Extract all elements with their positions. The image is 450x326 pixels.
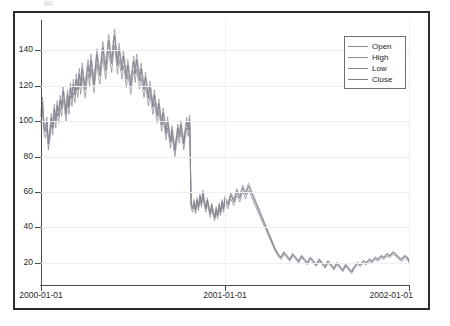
legend-swatch-close — [348, 79, 368, 80]
chart-figure: 204060801001201402000-01-012001-01-01200… — [0, 0, 450, 326]
legend-label-close: Close — [372, 74, 392, 85]
legend-swatch-low — [348, 68, 368, 69]
legend-swatch-high — [348, 57, 368, 58]
y-tick-text: 120 — [19, 81, 33, 90]
gridline-v — [225, 22, 226, 285]
legend-item-low[interactable]: Low — [348, 63, 402, 74]
artifact-speck — [44, 1, 53, 6]
gridline-v — [409, 22, 410, 285]
y-tick-mark — [35, 192, 41, 193]
y-tick-mark — [35, 86, 41, 87]
legend[interactable]: Open High Low Close — [344, 36, 406, 89]
y-tick-text: 140 — [19, 45, 33, 54]
legend-item-high[interactable]: High — [348, 52, 402, 63]
y-tick-mark — [35, 227, 41, 228]
y-tick-mark — [35, 121, 41, 122]
y-tick-text: 60 — [24, 187, 33, 196]
legend-swatch-open — [348, 46, 368, 47]
y-tick-text: 80 — [24, 152, 33, 161]
x-tick-label: 2002-01-01 — [370, 290, 413, 300]
x-tick-label: 2001-01-01 — [203, 290, 246, 300]
y-tick-text: 20 — [24, 258, 33, 267]
y-tick-mark — [35, 157, 41, 158]
y-tick-mark — [35, 50, 41, 51]
y-tick-text: 40 — [24, 222, 33, 231]
legend-item-open[interactable]: Open — [348, 41, 402, 52]
x-tick-label: 2000-01-01 — [19, 290, 62, 300]
y-tick-mark — [35, 263, 41, 264]
y-tick-text: 100 — [19, 116, 33, 125]
legend-label-low: Low — [372, 63, 387, 74]
legend-label-high: High — [372, 52, 388, 63]
legend-item-close[interactable]: Close — [348, 74, 402, 85]
y-axis-line — [41, 20, 42, 286]
legend-label-open: Open — [372, 41, 392, 52]
